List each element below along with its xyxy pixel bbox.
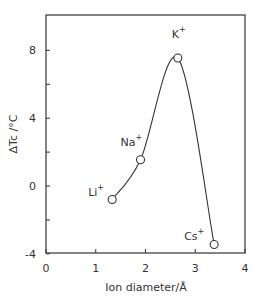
data-point-labels: Li+Na+K+Cs+ [88, 25, 204, 243]
data-point-marker [108, 196, 116, 204]
y-tick-label: 0 [29, 180, 36, 193]
y-tick-label: 4 [29, 112, 36, 125]
y-axis-label: ΔTc /°C [7, 114, 20, 153]
data-markers [108, 54, 218, 248]
data-point-marker [137, 156, 145, 164]
data-point-label: Cs+ [184, 227, 204, 243]
y-tick-label: 8 [29, 44, 36, 57]
x-tick-label: 3 [192, 262, 199, 275]
data-point-label: Na+ [121, 133, 143, 149]
data-curve [112, 57, 214, 245]
data-point-label: K+ [172, 25, 186, 41]
data-point-marker [210, 240, 218, 248]
x-axis-label-main: Ion diameter [105, 281, 176, 294]
data-point-marker [174, 54, 182, 62]
x-axis-label: Ion diameter/Å [105, 281, 187, 294]
chart: -4048 01234 Li+Na+K+Cs+ ΔTc /°C Ion diam… [0, 0, 257, 303]
x-tick-label: 1 [92, 262, 99, 275]
plot-frame [46, 15, 245, 253]
x-tick-label: 4 [242, 262, 249, 275]
x-tick-label: 2 [142, 262, 149, 275]
data-point-label: Li+ [88, 183, 104, 199]
y-tick-label: -4 [25, 248, 36, 261]
x-axis-label-unit: Å [179, 281, 187, 294]
x-tick-label: 0 [43, 262, 50, 275]
